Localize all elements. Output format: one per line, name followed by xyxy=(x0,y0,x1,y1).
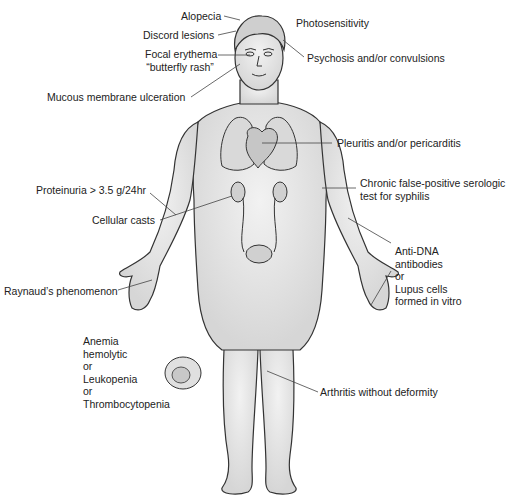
label-focal-erythema: Focal erythema “butterfly rash” xyxy=(145,48,215,73)
label-discord-lesions: Discord lesions xyxy=(143,29,214,42)
label-serologic-line1: Chronic false-positive serologic xyxy=(360,177,505,190)
label-pleuritis-pericarditis: Pleuritis and/or pericarditis xyxy=(337,137,461,150)
label-serologic-test: Chronic false-positive serologic test fo… xyxy=(360,177,505,202)
label-focal-erythema-line1: Focal erythema xyxy=(145,48,215,61)
label-raynauds-phenomenon: Raynaud’s phenomenon xyxy=(4,285,118,298)
label-cellular-casts: Cellular casts xyxy=(92,214,155,227)
label-mucous-membrane-ulceration: Mucous membrane ulceration xyxy=(47,91,185,104)
label-serologic-line2: test for syphilis xyxy=(360,190,505,203)
label-hematologic-disorders: Anemia hemolytic or Leukopenia or Thromb… xyxy=(83,335,170,410)
label-photosensitivity: Photosensitivity xyxy=(296,17,369,30)
label-butterfly-rash: “butterfly rash” xyxy=(145,61,215,74)
label-anti-dna-lupus-cells: Anti-DNA antibodies or Lupus cells forme… xyxy=(395,245,462,308)
blood-cell-illustration xyxy=(165,357,201,389)
label-proteinuria: Proteinuria > 3.5 g/24hr xyxy=(36,184,146,197)
label-psychosis-convulsions: Psychosis and/or convulsions xyxy=(307,52,445,65)
label-arthritis: Arthritis without deformity xyxy=(320,386,438,399)
label-alopecia: Alopecia xyxy=(181,10,221,23)
